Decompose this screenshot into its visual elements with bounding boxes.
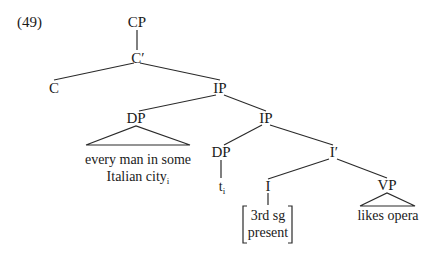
node-vp: VP	[377, 178, 396, 193]
feature-person-number: 3rd sg	[248, 207, 288, 224]
node-c-bar: C′	[131, 51, 144, 66]
node-i: I	[266, 179, 271, 194]
vp-leaf: likes opera	[357, 207, 418, 224]
dp-leaf-line2: Italian cityi	[85, 168, 191, 190]
dp-upper-leaf: every man in some Italian cityi	[85, 151, 191, 190]
edge-cbar-c	[54, 63, 134, 80]
node-ip-upper: IP	[213, 81, 226, 96]
dp-triangle	[86, 126, 190, 145]
edge-ibar-i	[268, 159, 329, 179]
edge-ip2-ibar	[270, 125, 333, 145]
dp-leaf-line1: every man in some	[85, 151, 191, 168]
trace-leaf: ti	[219, 178, 225, 200]
edge-ibar-vp	[337, 159, 387, 178]
example-number: (49)	[17, 15, 42, 30]
feature-tense: present	[248, 224, 288, 241]
edge-ip-dp	[139, 95, 216, 111]
edge-ip2-dp2	[224, 125, 262, 145]
i-features-leaf: 3rd sg present	[248, 207, 288, 241]
node-c: C	[49, 81, 59, 96]
left-bracket	[243, 206, 247, 243]
node-dp-upper: DP	[126, 111, 145, 126]
node-dp-lower: DP	[211, 145, 230, 160]
vp-triangle	[360, 193, 415, 206]
node-i-bar: I′	[330, 145, 338, 160]
node-ip-lower: IP	[259, 111, 272, 126]
right-bracket	[288, 206, 292, 243]
node-cp: CP	[128, 15, 146, 30]
edge-cbar-ip	[140, 63, 220, 80]
